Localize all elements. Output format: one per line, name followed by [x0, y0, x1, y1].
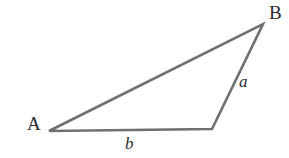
vertex-label-b: B	[269, 3, 282, 22]
vertex-label-a: A	[27, 114, 41, 133]
side-label-b: b	[125, 135, 134, 152]
side-label-a: a	[239, 73, 248, 90]
triangle-outline	[49, 24, 263, 131]
triangle-figure: A B a b	[0, 0, 289, 158]
